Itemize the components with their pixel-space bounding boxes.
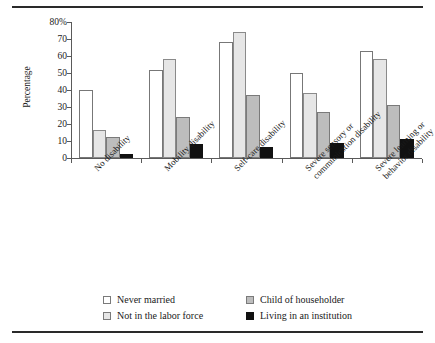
legend-item: Child of householder	[246, 295, 403, 305]
bar	[163, 59, 177, 158]
x-tick-mark	[422, 159, 423, 163]
y-tick-label: 50	[21, 69, 67, 79]
chart-legend: Never marriedChild of householderNot in …	[103, 292, 403, 324]
x-tick-mark	[352, 159, 353, 163]
y-tick-label: 70	[21, 35, 67, 45]
bar	[233, 32, 247, 158]
x-tick-mark	[211, 159, 212, 163]
y-tick-label: 0	[21, 154, 67, 164]
legend-label: Never married	[117, 295, 175, 305]
legend-label: Living in an institution	[260, 311, 352, 321]
legend-swatch-icon	[103, 296, 111, 304]
legend-swatch-icon	[103, 312, 111, 320]
x-tick-mark	[282, 159, 283, 163]
y-tick-label: 20	[21, 120, 67, 130]
y-tick-label: 30	[21, 103, 67, 113]
legend-swatch-icon	[246, 296, 254, 304]
legend-label: Not in the labor force	[117, 311, 203, 321]
y-tick-label: 10	[21, 137, 67, 147]
bar	[290, 73, 304, 158]
bar	[303, 93, 317, 158]
bar	[120, 154, 134, 158]
x-tick-mark	[71, 159, 72, 163]
bar	[219, 42, 233, 158]
legend-label: Child of householder	[260, 295, 344, 305]
legend-item: Never married	[103, 295, 246, 305]
legend-swatch-icon	[246, 312, 254, 320]
bar	[149, 70, 163, 158]
y-tick-label: 80%	[21, 18, 67, 28]
legend-item: Living in an institution	[246, 311, 403, 321]
x-tick-mark	[141, 159, 142, 163]
y-tick-label: 60	[21, 52, 67, 62]
y-tick-label: 40	[21, 86, 67, 96]
bar	[79, 90, 93, 158]
legend-item: Not in the labor force	[103, 311, 246, 321]
